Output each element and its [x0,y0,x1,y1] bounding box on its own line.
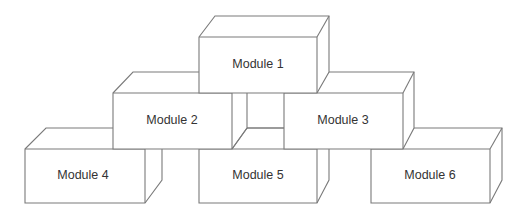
module-3-label: Module 3 [317,113,368,127]
module-4-label: Module 4 [57,168,108,182]
module-6-label: Module 6 [404,168,455,182]
module-5-label: Module 5 [232,168,283,182]
module-1-block: Module 1 [199,16,329,93]
module-1-label: Module 1 [232,57,283,71]
module-2-label: Module 2 [146,113,197,127]
module-pyramid-diagram: Module 4 Module 5 Module 6 Module 2 Modu… [0,0,527,216]
